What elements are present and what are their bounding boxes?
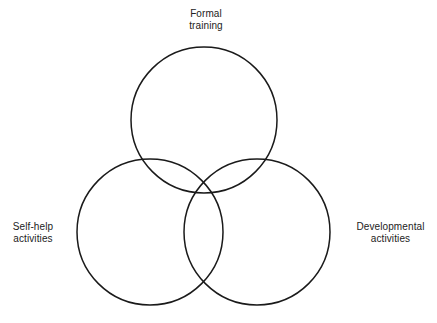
label-formal-training: Formal training (0, 8, 412, 32)
label-developmental-activities: Developmental activities (346, 221, 435, 245)
label-developmental-line1: Developmental (346, 221, 435, 233)
label-self-help-line1: Self-help (0, 221, 66, 233)
circle-self-help-activities (77, 159, 223, 305)
label-formal-training-line2: training (0, 20, 412, 32)
label-formal-training-line1: Formal (0, 8, 412, 20)
venn-diagram: Formal training Self-help activities Dev… (0, 0, 437, 323)
label-developmental-line2: activities (346, 233, 435, 245)
label-self-help-activities: Self-help activities (0, 221, 66, 245)
label-self-help-line2: activities (0, 233, 66, 245)
circle-developmental-activities (184, 159, 330, 305)
venn-diagram-svg (0, 0, 437, 323)
circle-formal-training (131, 47, 277, 193)
